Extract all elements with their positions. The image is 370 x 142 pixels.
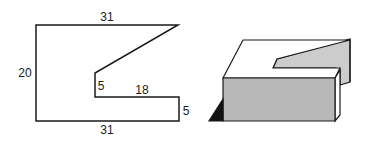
shadow-triangle (209, 99, 223, 121)
dimension-inner-vertical: 5 (98, 79, 105, 93)
front-block-side (335, 70, 340, 121)
front-face (223, 78, 335, 121)
diagram-canvas: 31 20 5 18 5 31 (0, 0, 370, 142)
dimension-left: 20 (18, 66, 32, 80)
profile-2d: 31 20 5 18 5 31 (18, 10, 189, 137)
solid-3d (209, 39, 350, 121)
dimension-top: 31 (100, 10, 114, 24)
dimension-bottom: 31 (100, 123, 114, 137)
profile-outline (36, 25, 179, 121)
dimension-inner-horizontal: 18 (135, 83, 149, 97)
dimension-right: 5 (183, 104, 190, 118)
